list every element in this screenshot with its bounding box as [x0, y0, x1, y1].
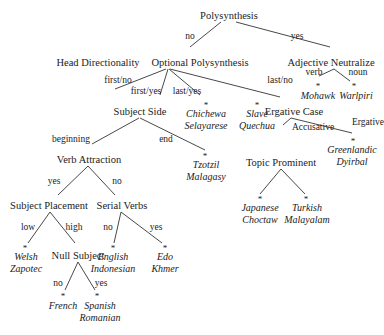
leaf-mohawk: Mohawk: [301, 90, 335, 102]
edge-label-ns-no: no: [53, 278, 63, 289]
node-serial-verbs: Serial Verbs: [97, 200, 148, 211]
language-name: Quechua: [239, 120, 275, 132]
edge-label-erg-accusative: Accusative: [292, 122, 334, 133]
leaf-marker-icon: *: [61, 292, 66, 300]
leaf-marker-icon: *: [95, 292, 100, 300]
language-name: Indonesian: [91, 263, 135, 275]
language-name: English: [91, 251, 135, 263]
node-optional-polysynthesis: Optional Polysynthesis: [151, 57, 248, 68]
language-name: Dyirbal: [327, 156, 377, 168]
leaf-spanish-romanian: Spanish Romanian: [79, 300, 120, 323]
edge-label-sp-high: high: [66, 222, 83, 233]
leaf-marker-icon: *: [352, 82, 357, 90]
language-name: Welsh: [10, 251, 42, 263]
edge-label-sv-no: no: [103, 222, 113, 233]
leaf-marker-icon: *: [316, 82, 321, 90]
edge-label-poly-yes: yes: [291, 31, 304, 42]
edge-label-sv-yes: yes: [150, 222, 163, 233]
edge-label-last-no: last/no: [267, 75, 292, 86]
edge-label-first-no: first/no: [104, 75, 131, 86]
edge-label-ns-yes: yes: [95, 278, 108, 289]
leaf-tzotzil-malagasy: Tzotzil Malagasy: [186, 159, 225, 182]
node-subject-placement: Subject Placement: [10, 200, 88, 211]
leaf-warlpiri: Warlpiri: [339, 90, 373, 102]
language-name: Selayarese: [185, 120, 228, 132]
edge-label-side-beginning: beginning: [52, 134, 90, 145]
language-name: Malagasy: [186, 171, 225, 183]
edge-label-last-yes: last/yes: [173, 86, 202, 97]
language-name: Khmer: [151, 263, 178, 275]
leaf-french: French: [49, 300, 78, 312]
language-name: Mohawk: [301, 90, 335, 102]
edge-label-poly-no: no: [185, 31, 195, 42]
edge-label-va-no: no: [112, 176, 122, 187]
node-verb-attraction: Verb Attraction: [57, 154, 121, 165]
language-name: Greenlandic: [327, 144, 377, 156]
leaf-welsh-zapotec: Welsh Zapotec: [10, 251, 42, 274]
language-name: Choctaw: [241, 214, 278, 226]
node-polysynthesis: Polysynthesis: [200, 10, 258, 21]
language-name: Zapotec: [10, 263, 42, 275]
node-head-directionality: Head Directionality: [56, 57, 139, 68]
leaf-turkish-malayalam: Turkish Malayalam: [284, 202, 330, 225]
language-name: Slave: [239, 108, 275, 120]
parameter-hierarchy-tree: Polysynthesis Head Directionality Option…: [0, 0, 384, 335]
language-name: French: [49, 300, 78, 312]
node-topic-prominent: Topic Prominent: [246, 157, 316, 168]
edge-label-erg-ergative: Ergative: [352, 117, 384, 128]
node-subject-side: Subject Side: [114, 106, 167, 117]
language-name: Romanian: [79, 312, 120, 324]
language-name: Tzotzil: [186, 159, 225, 171]
leaf-edo-khmer: Edo Khmer: [151, 251, 178, 274]
language-name: Spanish: [79, 300, 120, 312]
language-name: Edo: [151, 251, 178, 263]
leaf-chichewa-selayarese: Chichewa Selayarese: [185, 108, 228, 131]
language-name: Warlpiri: [339, 90, 373, 102]
edge-label-va-yes: yes: [48, 176, 61, 187]
edge-label-side-end: end: [159, 134, 173, 145]
edge-label-first-yes: first/yes: [131, 86, 162, 97]
language-name: Malayalam: [284, 214, 330, 226]
language-name: Japanese: [241, 202, 278, 214]
edge-label-adj-noun: noun: [349, 67, 368, 78]
leaf-english-indonesian: English Indonesian: [91, 251, 135, 274]
leaf-greenlandic-dyirbal: Greenlandic Dyirbal: [327, 144, 377, 167]
leaf-slave-quechua: Slave Quechua: [239, 108, 275, 131]
language-name: Chichewa: [185, 108, 228, 120]
edge-label-sp-low: low: [21, 222, 35, 233]
language-name: Turkish: [284, 202, 330, 214]
leaf-japanese-choctaw: Japanese Choctaw: [241, 202, 278, 225]
edge-label-adj-verb: verb: [306, 67, 323, 78]
